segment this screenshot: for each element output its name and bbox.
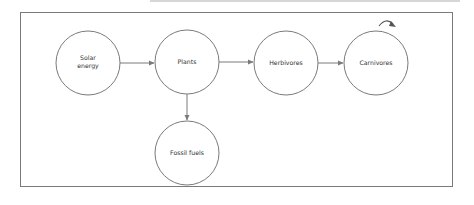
node-label: energy xyxy=(77,62,99,70)
node-label: Herbivores xyxy=(269,59,303,66)
node-herbivores: Herbivores xyxy=(254,31,318,95)
food-chain-diagram: Solar energy Plants Herbivores Carnivore… xyxy=(0,0,474,205)
node-carnivores: Carnivores xyxy=(344,31,408,95)
node-fossil-fuels: Fossil fuels xyxy=(155,121,219,185)
node-label: Plants xyxy=(178,58,197,65)
node-label: Fossil fuels xyxy=(170,149,204,156)
node-plants: Plants xyxy=(155,30,219,94)
node-solar-energy: Solar energy xyxy=(56,31,120,95)
node-label: Solar xyxy=(80,54,96,61)
node-label: Carnivores xyxy=(359,59,392,66)
